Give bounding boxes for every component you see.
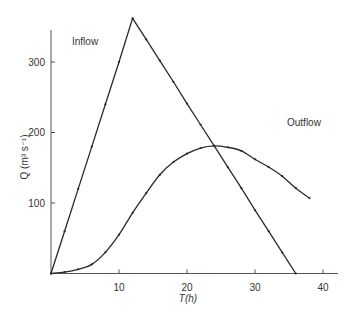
y-tick-label: 100	[28, 198, 45, 209]
data-point	[186, 102, 188, 104]
data-point	[132, 17, 134, 19]
y-axis-label: Q (m³ s⁻¹)	[19, 135, 30, 180]
data-point	[268, 230, 270, 232]
inflow-label: Inflow	[72, 36, 99, 47]
data-point	[132, 212, 134, 214]
data-point	[281, 175, 283, 177]
data-point	[91, 146, 93, 148]
data-point	[172, 161, 174, 163]
outflow-label: Outflow	[287, 117, 322, 128]
x-axis-label: T(h)	[179, 293, 197, 304]
data-point	[104, 251, 106, 253]
data-point	[145, 192, 147, 194]
x-tick-label: 10	[113, 282, 125, 293]
data-point	[200, 147, 202, 149]
data-point	[159, 59, 161, 61]
data-point	[118, 61, 120, 63]
data-point	[159, 174, 161, 176]
data-point	[91, 263, 93, 265]
data-point	[268, 166, 270, 168]
data-point	[295, 187, 297, 189]
data-point	[77, 188, 79, 190]
data-point	[281, 251, 283, 253]
series-line-outflow	[51, 146, 309, 274]
data-point	[200, 124, 202, 126]
data-point	[64, 271, 66, 273]
data-point	[240, 150, 242, 152]
data-point	[308, 197, 310, 199]
y-tick-label: 300	[28, 57, 45, 68]
x-tick-label: 20	[181, 282, 193, 293]
hydrograph-chart: 10020030010203040T(h)Q (m³ s⁻¹)InflowOut…	[0, 0, 355, 316]
data-point	[254, 158, 256, 160]
data-point	[254, 209, 256, 211]
data-point	[118, 234, 120, 236]
data-point	[227, 146, 229, 148]
data-point	[227, 166, 229, 168]
data-point	[186, 153, 188, 155]
data-point	[172, 81, 174, 83]
data-point	[213, 145, 215, 147]
y-tick-label: 200	[28, 127, 45, 138]
data-point	[240, 187, 242, 189]
data-point	[104, 103, 106, 105]
data-point	[295, 272, 297, 274]
x-tick-label: 40	[317, 282, 329, 293]
chart-container: 10020030010203040T(h)Q (m³ s⁻¹)InflowOut…	[0, 0, 355, 316]
data-point	[50, 272, 52, 274]
x-tick-label: 30	[249, 282, 261, 293]
series-line-inflow	[51, 18, 296, 273]
data-point	[77, 268, 79, 270]
data-point	[64, 230, 66, 232]
data-point	[145, 38, 147, 40]
